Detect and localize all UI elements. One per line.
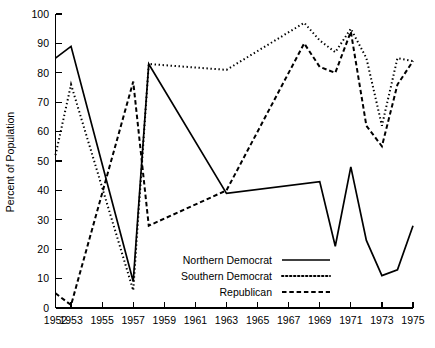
chart-figure: 0102030405060708090100 19521953195519571… (0, 0, 435, 348)
y-tick-label: 80 (37, 67, 49, 79)
x-tick-label: 1975 (401, 314, 425, 326)
legend-label-republican: Republican (219, 286, 272, 298)
x-tick-label: 1953 (59, 314, 83, 326)
y-tick-label: 50 (37, 155, 49, 167)
x-tick-label: 1961 (184, 314, 208, 326)
chart-svg: 0102030405060708090100 19521953195519571… (0, 0, 435, 348)
legend: Northern DemocratSouthern DemocratRepubl… (181, 254, 330, 298)
y-axis-tick-labels: 0102030405060708090100 (31, 8, 49, 314)
x-axis-tick-marks (56, 302, 414, 309)
y-tick-label: 70 (37, 96, 49, 108)
y-axis-title: Percent of Population (4, 112, 16, 213)
x-tick-label: 1969 (308, 314, 332, 326)
x-axis-tick-labels: 1952195319551957195919611963196519671969… (44, 314, 425, 326)
x-tick-label: 1959 (153, 314, 177, 326)
x-tick-label: 1967 (277, 314, 301, 326)
y-tick-label: 60 (37, 125, 49, 137)
y-tick-label: 40 (37, 184, 49, 196)
x-tick-label: 1957 (122, 314, 146, 326)
y-tick-label: 0 (43, 302, 49, 314)
legend-label-northern-democrat: Northern Democrat (183, 254, 272, 266)
x-tick-label: 1971 (339, 314, 363, 326)
x-tick-label: 1955 (90, 314, 114, 326)
x-tick-label: 1973 (370, 314, 394, 326)
y-tick-label: 20 (37, 243, 49, 255)
y-tick-label: 30 (37, 214, 49, 226)
series-line-southern-democrat (56, 23, 414, 291)
x-tick-label: 1963 (215, 314, 239, 326)
legend-label-southern-democrat: Southern Democrat (181, 270, 272, 282)
y-tick-label: 100 (31, 8, 49, 20)
series-line-northern-democrat (56, 46, 414, 281)
y-tick-label: 90 (37, 37, 49, 49)
y-tick-label: 10 (37, 272, 49, 284)
x-tick-label: 1965 (246, 314, 270, 326)
